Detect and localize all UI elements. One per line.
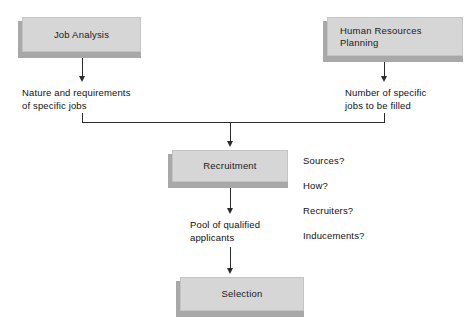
selection-box-label: Selection xyxy=(181,288,303,300)
recruitment-output-note: Pool of qualified applicants xyxy=(190,219,320,244)
recruitment-input-line xyxy=(230,122,231,143)
selection-input-arrowhead xyxy=(227,268,233,274)
recruitment-box[interactable]: Recruitment xyxy=(172,150,288,182)
recruitment-box-label: Recruitment xyxy=(173,160,287,172)
selection-input-line xyxy=(230,247,231,270)
recruitment-question-recruiters: Recruiters? xyxy=(303,205,413,218)
hr-planning-output-note: Number of specific jobs to be filled xyxy=(345,87,465,112)
recruitment-question-how: How? xyxy=(303,180,413,193)
recruitment-output-line xyxy=(230,188,231,210)
job-analysis-connector-arrowhead xyxy=(79,76,85,82)
job-analysis-box-label: Job Analysis xyxy=(23,29,140,41)
recruitment-question-sources: Sources? xyxy=(303,155,413,168)
job-analysis-output-note: Nature and requirements of specific jobs xyxy=(22,87,172,112)
recruitment-output-arrowhead xyxy=(227,208,233,214)
recruitment-input-arrowhead xyxy=(227,141,233,147)
recruitment-flowchart: Job Analysis Nature and requirements of … xyxy=(0,0,465,329)
job-analysis-connector-line xyxy=(82,58,83,78)
selection-box[interactable]: Selection xyxy=(180,277,304,311)
merge-bus-line xyxy=(82,122,385,123)
hr-planning-box-label: Human Resources Planning xyxy=(328,25,462,49)
hr-planning-box[interactable]: Human Resources Planning xyxy=(327,17,463,56)
hr-planning-connector-arrowhead xyxy=(381,76,387,82)
job-analysis-box[interactable]: Job Analysis xyxy=(22,17,141,52)
